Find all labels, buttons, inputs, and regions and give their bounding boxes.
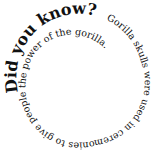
spiral-text-figure: Did you know? Gorilla skulls were used i… xyxy=(0,0,155,154)
spiral-heading: Did you know? xyxy=(1,0,98,94)
spiral-text: Did you know? Gorilla skulls were used i… xyxy=(1,0,154,152)
spiral-canvas: Did you know? Gorilla skulls were used i… xyxy=(0,0,155,154)
